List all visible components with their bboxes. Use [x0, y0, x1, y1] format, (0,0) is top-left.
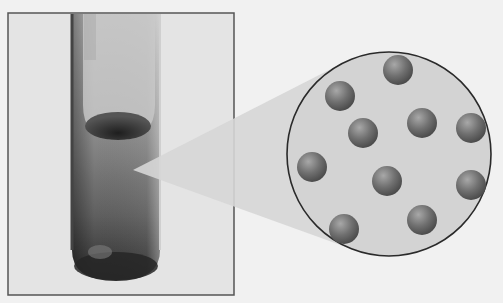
particle-sphere	[325, 81, 355, 111]
test-tube-magnification-figure	[0, 0, 503, 303]
bottom-sediment	[74, 252, 158, 280]
particle-sphere	[372, 166, 402, 196]
magnified-view	[287, 52, 491, 256]
particle-sphere	[383, 55, 413, 85]
illustration	[0, 0, 503, 303]
particle-sphere	[329, 214, 359, 244]
particle-sphere	[297, 152, 327, 182]
dark-precipitate	[85, 112, 151, 140]
particle-sphere	[348, 118, 378, 148]
test-tube	[72, 14, 160, 281]
sediment-highlight	[88, 245, 112, 259]
particle-sphere	[407, 108, 437, 138]
particle-sphere	[456, 113, 486, 143]
inner-rod	[84, 14, 96, 60]
particle-sphere	[407, 205, 437, 235]
particle-sphere	[456, 170, 486, 200]
